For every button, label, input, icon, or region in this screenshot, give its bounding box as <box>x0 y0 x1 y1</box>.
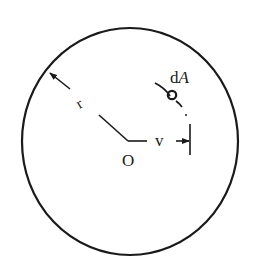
element-label: dA <box>170 68 190 87</box>
radius-label: r <box>73 95 85 111</box>
radius-line <box>99 115 128 141</box>
element-arc-lower <box>176 101 182 107</box>
circular-section-diagram: r O v dA <box>0 0 257 266</box>
distance-label: v <box>155 131 164 150</box>
origin-label: O <box>122 151 134 170</box>
element-label-A: A <box>178 68 190 87</box>
element-dot <box>185 114 187 116</box>
radius-arrow <box>50 73 70 89</box>
